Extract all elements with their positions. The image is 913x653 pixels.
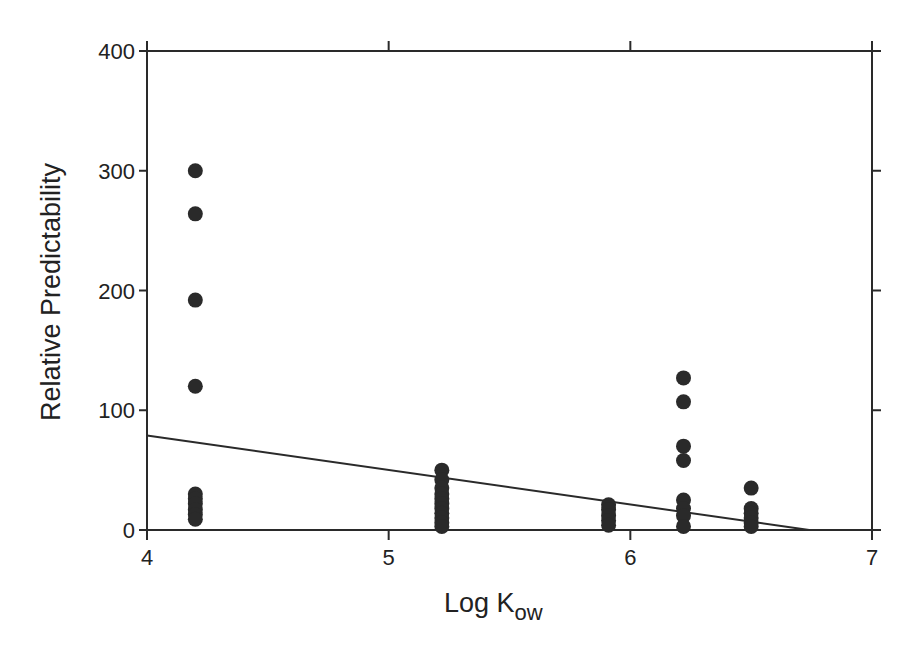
- x-axis-title: Log Kow: [444, 588, 543, 625]
- data-point: [676, 519, 691, 534]
- x-tick-label: 7: [866, 545, 878, 570]
- data-point: [188, 512, 203, 527]
- y-tick-label: 200: [98, 279, 135, 304]
- x-axis-ticks: 4567: [141, 41, 878, 570]
- data-point: [601, 518, 616, 533]
- x-tick-label: 4: [141, 545, 153, 570]
- data-point: [188, 163, 203, 178]
- y-axis-title: Relative Predictability: [36, 162, 66, 421]
- y-tick-label: 300: [98, 159, 135, 184]
- data-point: [676, 453, 691, 468]
- y-tick-label: 400: [98, 39, 135, 64]
- scatter-chart: 0100200300400 4567 Relative Predictabili…: [0, 0, 913, 653]
- data-points: [188, 163, 759, 534]
- data-point: [676, 370, 691, 385]
- data-point: [188, 379, 203, 394]
- y-tick-label: 0: [123, 518, 135, 543]
- x-tick-label: 6: [624, 545, 636, 570]
- data-point: [188, 206, 203, 221]
- data-point: [434, 519, 449, 534]
- data-point: [676, 394, 691, 409]
- y-tick-label: 100: [98, 398, 135, 423]
- regression-line: [147, 435, 809, 530]
- data-point: [744, 519, 759, 534]
- data-point: [744, 481, 759, 496]
- data-point: [676, 439, 691, 454]
- y-axis-ticks: 0100200300400: [98, 39, 881, 543]
- data-point: [188, 293, 203, 308]
- plot-frame: [147, 51, 872, 530]
- x-tick-label: 5: [383, 545, 395, 570]
